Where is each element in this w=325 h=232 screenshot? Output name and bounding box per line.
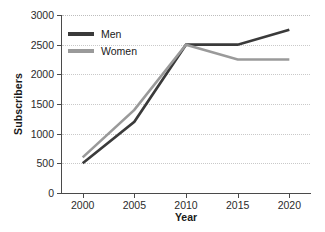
x-tick-label: 2015	[226, 199, 249, 211]
x-tick-mark	[186, 193, 187, 198]
legend-swatch-women	[68, 49, 94, 53]
x-tick-mark	[238, 193, 239, 198]
y-axis-title: Subscribers	[12, 44, 24, 164]
legend-item-women: Women	[68, 42, 137, 59]
x-tick-label: 2010	[174, 199, 197, 211]
plot-area: 050010001500200025003000 200020052010201…	[62, 15, 310, 193]
x-tick-label: 2000	[71, 199, 94, 211]
y-tick-label: 2000	[31, 68, 54, 80]
y-tick-label: 1500	[31, 98, 54, 110]
legend-label: Men	[101, 28, 121, 40]
legend: MenWomen	[68, 25, 137, 59]
x-tick-mark	[289, 193, 290, 198]
x-tick-label: 2020	[278, 199, 301, 211]
y-tick-mark	[57, 193, 62, 194]
x-tick-mark	[83, 193, 84, 198]
x-tick-label: 2005	[123, 199, 146, 211]
line-chart: Subscribers 050010001500200025003000 200…	[0, 0, 325, 232]
legend-item-men: Men	[68, 25, 137, 42]
legend-swatch-men	[68, 32, 94, 36]
x-tick-mark	[134, 193, 135, 198]
y-tick-label: 2500	[31, 39, 54, 51]
series-line-women	[83, 45, 290, 158]
x-axis-title: Year	[62, 211, 310, 223]
y-tick-label: 0	[48, 187, 54, 199]
y-tick-label: 1000	[31, 128, 54, 140]
y-tick-label: 500	[36, 157, 54, 169]
y-tick-label: 3000	[31, 9, 54, 21]
legend-label: Women	[101, 45, 137, 57]
